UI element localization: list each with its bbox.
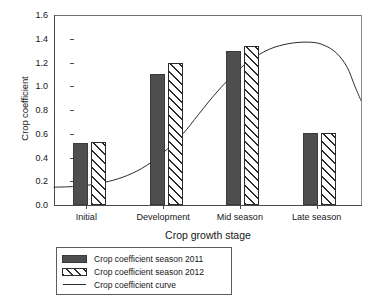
y-tick-label: 0.8 [20,106,48,115]
legend-item-curve: Crop coefficient curve [62,278,231,291]
legend-swatch-2012-icon [62,268,87,276]
plot-right-border [361,15,362,206]
legend-item-season-2011: Crop coefficient season 2011 [62,252,231,265]
y-tick-label: 1.2 [20,58,48,67]
y-tick-label: 0.6 [20,129,48,138]
x-tick-mark [163,205,164,209]
bar-2012-development [168,63,183,206]
legend-label-curve: Crop coefficient curve [94,280,176,290]
x-tick-label-mid-season: Mid season [217,212,263,222]
x-tick-label-development: Development [137,212,190,222]
y-tick-label: 1.4 [20,34,48,43]
bar-2011-initial [73,143,88,205]
bar-2011-mid-season [226,51,241,205]
x-tick-mark [240,205,241,209]
y-tick-label: 0.2 [20,177,48,186]
chart-legend: Crop coefficient season 2011 Crop coeffi… [56,247,232,295]
x-tick-label-initial: Initial [76,212,97,222]
y-tick-label: 0.0 [20,201,48,210]
legend-swatch-curve-icon [62,281,87,289]
chart-figure: Crop coefficient 0.00.20.40.60.81.01.21.… [0,0,382,302]
x-tick-mark [317,205,318,209]
y-axis-tick-labels: 0.00.20.40.60.81.01.21.41.6 [20,0,48,302]
bar-2012-initial [91,142,106,205]
y-tick-label: 1.6 [20,11,48,20]
legend-label-2012: Crop coefficient season 2012 [94,267,204,277]
legend-label-2011: Crop coefficient season 2011 [94,254,203,264]
legend-item-season-2012: Crop coefficient season 2012 [62,265,231,278]
bar-2012-late-season [321,133,336,205]
x-axis-line [54,205,362,206]
x-tick-label-late-season: Late season [292,212,341,222]
bar-2011-late-season [303,133,318,205]
bar-2012-mid-season [244,46,259,205]
x-tick-mark [86,205,87,209]
bar-2011-development [150,74,165,205]
y-tick-label: 0.4 [20,153,48,162]
x-axis-title: Crop growth stage [54,229,362,241]
y-tick-label: 1.0 [20,82,48,91]
legend-swatch-2011-icon [62,255,87,263]
